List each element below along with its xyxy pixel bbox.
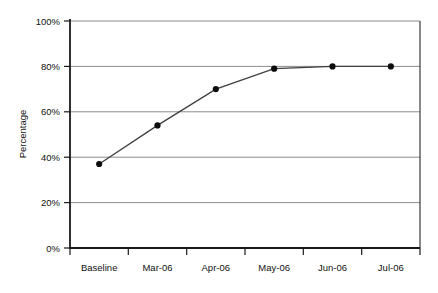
y-tick-label-80: 80% [41, 61, 61, 72]
y-axis-title: Percentage [17, 110, 28, 159]
x-tick-label-jun-06: Jun-06 [318, 262, 347, 273]
x-tick-label-may-06: May-06 [258, 262, 290, 273]
data-point-may-06 [271, 66, 277, 72]
data-point-apr-06 [213, 86, 219, 92]
chart-canvas: 100% 80% 60% 40% 20% 0% Percentage Basel… [0, 0, 438, 293]
x-tick-label-jul-06: Jul-06 [378, 262, 404, 273]
x-tick-label-mar-06: Mar-06 [142, 262, 172, 273]
y-tick-label-20: 20% [41, 197, 61, 208]
y-tick-label-40: 40% [41, 152, 61, 163]
x-tick-label-baseline: Baseline [81, 262, 117, 273]
percentage-line-chart: 100% 80% 60% 40% 20% 0% Percentage Basel… [0, 0, 438, 293]
data-point-jul-06 [388, 63, 394, 69]
plot-area-background [70, 21, 420, 248]
y-tick-label-100: 100% [36, 16, 61, 27]
y-tick-label-0: 0% [46, 243, 60, 254]
data-point-baseline [96, 161, 102, 167]
data-point-mar-06 [154, 122, 160, 128]
data-point-jun-06 [329, 63, 335, 69]
y-tick-label-60: 60% [41, 106, 61, 117]
x-tick-label-apr-06: Apr-06 [202, 262, 231, 273]
